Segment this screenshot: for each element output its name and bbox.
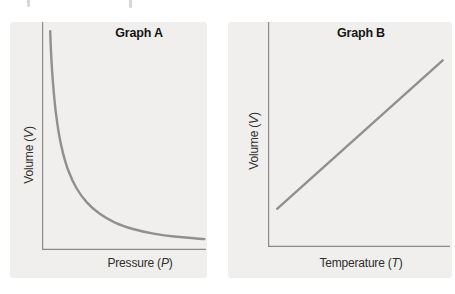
graph-b-line <box>277 60 443 209</box>
graph-a-y-axis-label: Volume (V) <box>22 126 36 183</box>
graph-b-y-axis-label: Volume (V) <box>247 112 261 169</box>
cropped-text-artifact <box>129 0 132 8</box>
graph-b-plot <box>268 22 450 247</box>
figure-canvas: Graph A Volume (V) Pressure (P) Graph B … <box>0 0 455 294</box>
cropped-text-artifact <box>27 0 30 7</box>
graph-a-plot <box>42 22 206 250</box>
graph-b-x-axis-label: Temperature (T) <box>319 256 402 270</box>
graph-a-curve <box>50 31 204 239</box>
graph-a-x-axis-label: Pressure (P) <box>108 256 173 270</box>
